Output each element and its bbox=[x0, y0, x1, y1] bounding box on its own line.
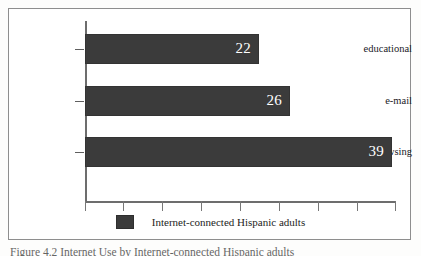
bar-e-mail: 26 bbox=[85, 86, 290, 116]
bar-educational: 22 bbox=[85, 34, 259, 64]
x-axis-tick bbox=[162, 201, 163, 211]
x-axis-tick bbox=[395, 201, 396, 211]
x-axis-tick bbox=[279, 201, 280, 211]
x-axis-tick bbox=[201, 201, 202, 211]
figure-caption: Figure 4.2 Internet Use by Internet-conn… bbox=[10, 246, 410, 256]
chart-plot-area: educational 22 e-mail 26 info browsing 3… bbox=[9, 9, 412, 241]
category-label-e-mail: e-mail bbox=[350, 95, 412, 106]
bar-value-info-browsing: 39 bbox=[368, 144, 384, 159]
bar-value-e-mail: 26 bbox=[266, 93, 282, 108]
category-tick-educational bbox=[75, 49, 84, 50]
figure-page: educational 22 e-mail 26 info browsing 3… bbox=[0, 0, 421, 256]
legend-label: Internet-connected Hispanic adults bbox=[152, 216, 305, 228]
x-axis-tick bbox=[357, 201, 358, 211]
x-axis-tick bbox=[85, 201, 86, 211]
x-axis-tick bbox=[240, 201, 241, 211]
category-label-educational: educational bbox=[350, 43, 412, 54]
x-axis-tick bbox=[123, 201, 124, 211]
chart-legend: Internet-connected Hispanic adults bbox=[9, 215, 412, 229]
category-tick-info-browsing bbox=[75, 152, 84, 153]
bar-info-browsing: 39 bbox=[85, 137, 392, 167]
legend-color-swatch bbox=[116, 215, 134, 229]
category-tick-e-mail bbox=[75, 101, 84, 102]
figure-frame: educational 22 e-mail 26 info browsing 3… bbox=[8, 8, 411, 240]
x-axis-tick bbox=[318, 201, 319, 211]
bar-value-educational: 22 bbox=[235, 41, 251, 56]
